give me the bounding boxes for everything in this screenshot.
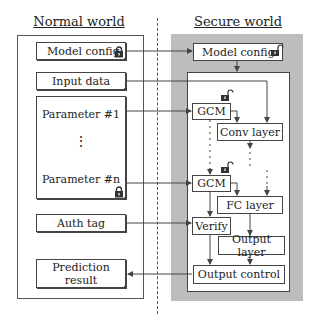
lock-open-icon <box>220 89 234 102</box>
lock-open-icon <box>270 44 284 57</box>
lock-closed-icon <box>114 186 124 198</box>
lock-open-icon <box>220 161 234 174</box>
lock-closed-icon <box>114 46 124 58</box>
connector-arrows <box>0 0 314 315</box>
